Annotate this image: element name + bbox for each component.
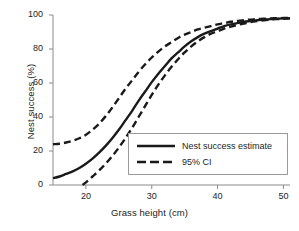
x-tick-label: 50 [268,191,298,201]
series-line-95-ci-upper [53,18,290,144]
chart-figure: Nest success (%) Grass height (cm) 02040… [0,0,299,231]
y-tick-label: 20 [19,145,43,155]
y-tick-label: 0 [19,179,43,189]
y-axis-title: Nest success (%) [25,17,36,187]
chart-legend: Nest success estimate 95% CI [128,133,288,175]
y-tick-label: 100 [19,9,43,19]
legend-item-confidence-interval: 95% CI [129,154,289,170]
y-tick-label: 80 [19,43,43,53]
legend-item-nest-success-estimate: Nest success estimate [129,138,289,154]
y-tick-marks [49,15,53,185]
x-tick-label: 30 [137,191,167,201]
legend-label-estimate: Nest success estimate [182,140,272,152]
legend-line-dashed-icon [136,156,176,168]
x-tick-label: 40 [203,191,233,201]
legend-line-solid-icon [136,140,176,152]
y-tick-label: 60 [19,77,43,87]
x-tick-marks [86,185,284,189]
x-tick-label: 20 [71,191,101,201]
legend-label-ci: 95% CI [182,156,212,168]
y-tick-label: 40 [19,111,43,121]
x-axis-title: Grass height (cm) [0,207,299,218]
